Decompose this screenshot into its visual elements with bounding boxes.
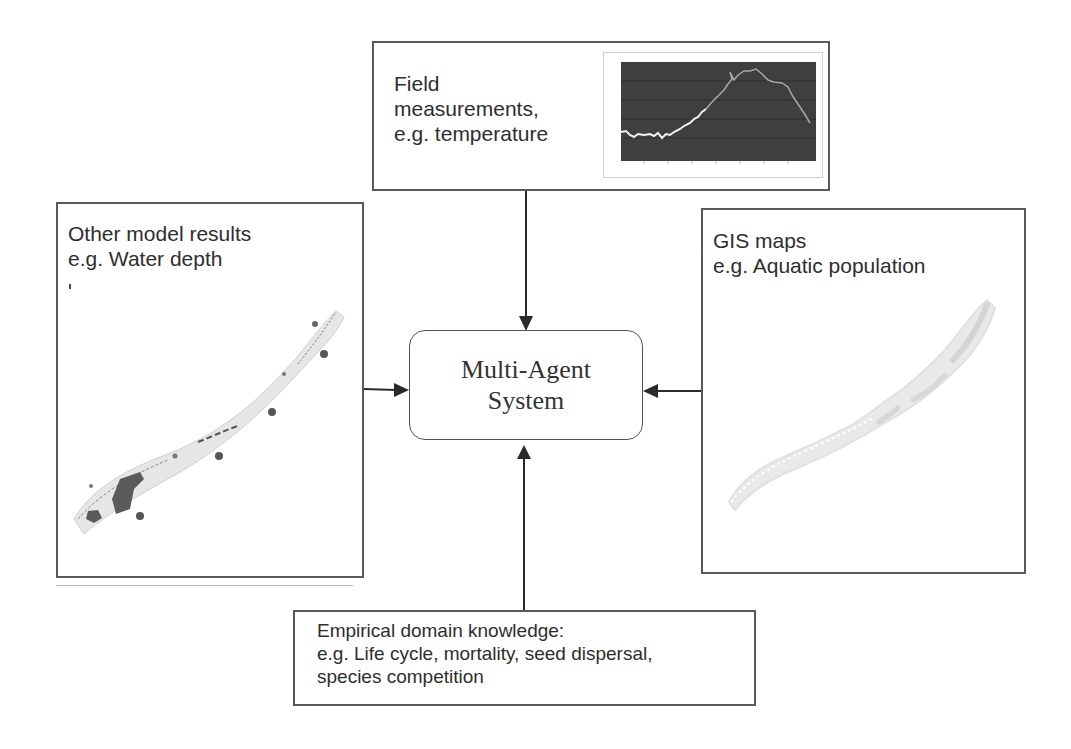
field-measurements-box: Field measurements, e.g. temperature bbox=[372, 41, 830, 191]
left-box-underline bbox=[56, 585, 353, 586]
gis-maps-box: GIS maps e.g. Aquatic population bbox=[701, 208, 1026, 574]
arrowhead-down-icon bbox=[519, 316, 533, 331]
empirical-knowledge-label-2: e.g. Life cycle, mortality, seed dispers… bbox=[317, 643, 652, 665]
multi-agent-system-node: Multi-Agent System bbox=[409, 330, 643, 440]
other-model-results-box: Other model results e.g. Water depth bbox=[56, 202, 364, 578]
multi-agent-system-label-2: System bbox=[488, 385, 565, 416]
aquatic-population-map-icon bbox=[703, 210, 1024, 572]
arrowhead-left-icon bbox=[643, 384, 658, 398]
arrowhead-up-icon bbox=[517, 445, 531, 459]
multi-agent-system-label-1: Multi-Agent bbox=[461, 354, 591, 385]
empirical-knowledge-box: Empirical domain knowledge: e.g. Life cy… bbox=[293, 610, 756, 706]
empirical-knowledge-label-3: species competition bbox=[317, 666, 484, 688]
temperature-chart-icon bbox=[604, 53, 822, 177]
arrow-left-to-center bbox=[364, 389, 396, 390]
water-depth-map-icon bbox=[58, 204, 362, 576]
field-measurements-label-3: e.g. temperature bbox=[394, 121, 548, 146]
field-measurements-label-1: Field bbox=[394, 71, 440, 96]
arrowhead-right-icon bbox=[394, 383, 409, 397]
empirical-knowledge-label-1: Empirical domain knowledge: bbox=[317, 620, 564, 642]
temperature-chart-thumbnail bbox=[603, 52, 823, 178]
field-measurements-label-2: measurements, bbox=[394, 96, 539, 121]
